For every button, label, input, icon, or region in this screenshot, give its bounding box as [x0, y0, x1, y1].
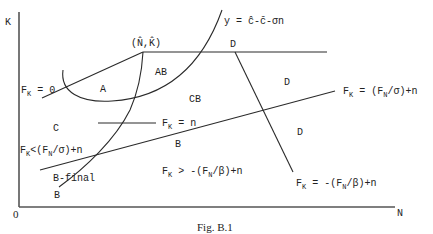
region-ab: AB — [155, 67, 167, 78]
fk-beta-gt-label: FK > -(FN/β)+n — [162, 166, 242, 179]
region-cb: CB — [189, 94, 201, 105]
b-final-curve — [59, 52, 143, 187]
fk-beta-eq-label: FK = -(FN/β)+n — [296, 178, 376, 191]
origin-label: 0 — [13, 208, 19, 220]
region-b-mid: B — [175, 139, 181, 150]
fk-zero-label: FK = 0 — [21, 85, 55, 98]
fk-sigma-lt-label: FK<(FN/σ)+n — [20, 145, 82, 158]
x-axis-label: N — [397, 208, 403, 219]
region-d-right: D — [297, 127, 303, 138]
figure-caption: Fig. B.1 — [197, 221, 233, 233]
fk-zero-line — [42, 52, 143, 98]
region-d-mid: D — [284, 77, 290, 88]
region-c: C — [53, 123, 59, 134]
peak-point-label: (N̂,K̂) — [131, 36, 161, 49]
region-b-final: B-final — [53, 173, 95, 184]
region-a: A — [100, 84, 106, 95]
fk-sigma-line — [40, 91, 335, 170]
curve-label: y = ĉ-c̄-σn — [224, 16, 284, 27]
fk-beta-line — [235, 52, 293, 172]
fk-sigma-eq-label: FK = (FN/σ)+n — [343, 86, 417, 99]
phase-diagram: K N 0 (N̂,K̂) y = ĉ-c̄-σn A AB CB C B B … — [0, 0, 433, 234]
y-axis-label: K — [5, 17, 11, 28]
region-b-bottom: B — [54, 190, 60, 201]
region-d-top: D — [230, 39, 236, 50]
